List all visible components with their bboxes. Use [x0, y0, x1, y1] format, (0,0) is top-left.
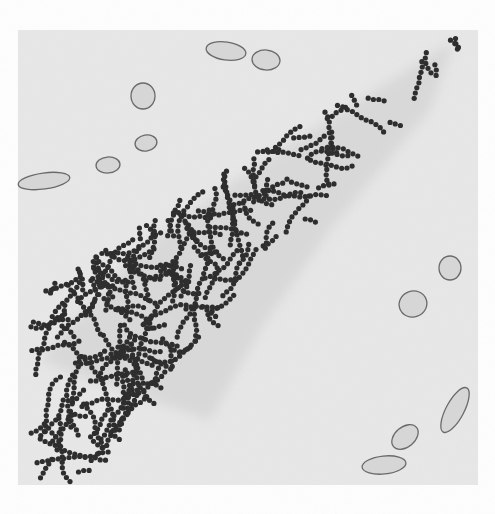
cell [439, 256, 461, 280]
cell [131, 83, 155, 109]
streptococcus-illustration [0, 0, 495, 514]
